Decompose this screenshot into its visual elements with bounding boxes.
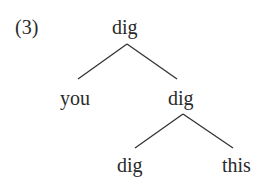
tree-node-dig-leaf: dig	[117, 155, 143, 175]
tree-node-this: this	[222, 155, 251, 175]
tree-node-root: dig	[112, 17, 138, 37]
edge-dig-dig	[135, 114, 183, 148]
edge-dig-this	[183, 114, 233, 148]
edge-root-dig	[127, 44, 177, 79]
tree-node-dig-mid: dig	[168, 88, 194, 108]
edge-root-you	[78, 44, 127, 79]
tree-node-you: you	[60, 88, 90, 108]
example-number: (3)	[15, 17, 38, 37]
